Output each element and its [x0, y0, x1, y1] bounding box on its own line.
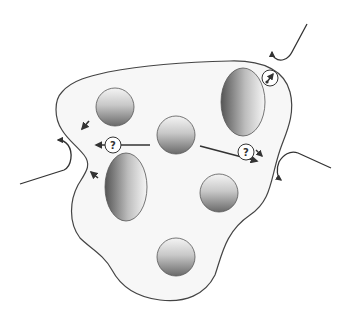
- sphere-organelle-2: [157, 116, 195, 154]
- sphere-organelle-1: [96, 88, 134, 126]
- question-marker-right: ?: [238, 144, 254, 160]
- sphere-organelle-3: [200, 174, 238, 212]
- cell-diagram: ? ?: [0, 0, 350, 317]
- vesicle-marker: [262, 70, 278, 86]
- question-mark-left: ?: [110, 140, 116, 151]
- external-arrow-top-right: [272, 24, 307, 60]
- question-marker-left: ?: [105, 137, 121, 153]
- external-arrow-left: [20, 140, 71, 184]
- ellipse-organelle-left: [105, 153, 147, 221]
- sphere-organelle-4: [157, 238, 195, 276]
- ellipse-organelle-right: [221, 68, 265, 136]
- question-mark-right: ?: [243, 147, 249, 158]
- external-arrow-right: [277, 152, 331, 180]
